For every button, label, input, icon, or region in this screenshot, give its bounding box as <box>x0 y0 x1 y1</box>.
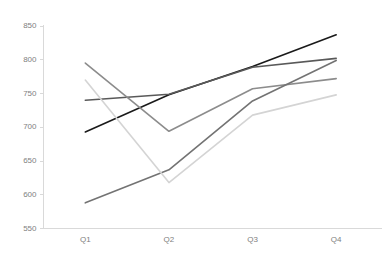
x-tick-label: Q4 <box>331 235 342 244</box>
x-tick-label: Q2 <box>164 235 175 244</box>
y-tick-label: 850 <box>23 21 37 30</box>
y-tick-label: 800 <box>23 55 37 64</box>
y-tick-label: 700 <box>23 122 37 131</box>
line-chart: 550600650700750800850 Q1Q2Q3Q4 <box>0 0 388 262</box>
chart-canvas: 550600650700750800850 Q1Q2Q3Q4 <box>0 0 388 262</box>
y-tick-label: 750 <box>23 89 37 98</box>
y-tick-label: 650 <box>23 156 37 165</box>
y-tick-label: 600 <box>23 190 37 199</box>
y-tick-label: 550 <box>23 224 37 233</box>
x-tick-label: Q1 <box>80 235 91 244</box>
plot-background <box>0 0 388 262</box>
x-tick-label: Q3 <box>247 235 258 244</box>
